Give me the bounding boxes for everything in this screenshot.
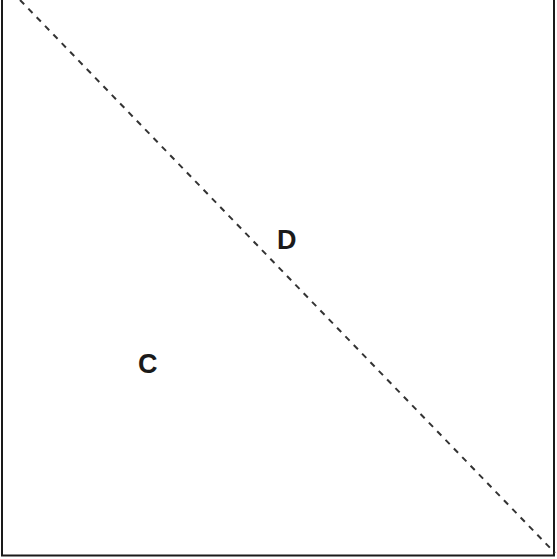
diagonal-dashed-line bbox=[20, 0, 555, 553]
region-label-c: C bbox=[138, 351, 158, 378]
diagram-canvas bbox=[0, 0, 557, 559]
region-label-d: D bbox=[277, 227, 297, 254]
